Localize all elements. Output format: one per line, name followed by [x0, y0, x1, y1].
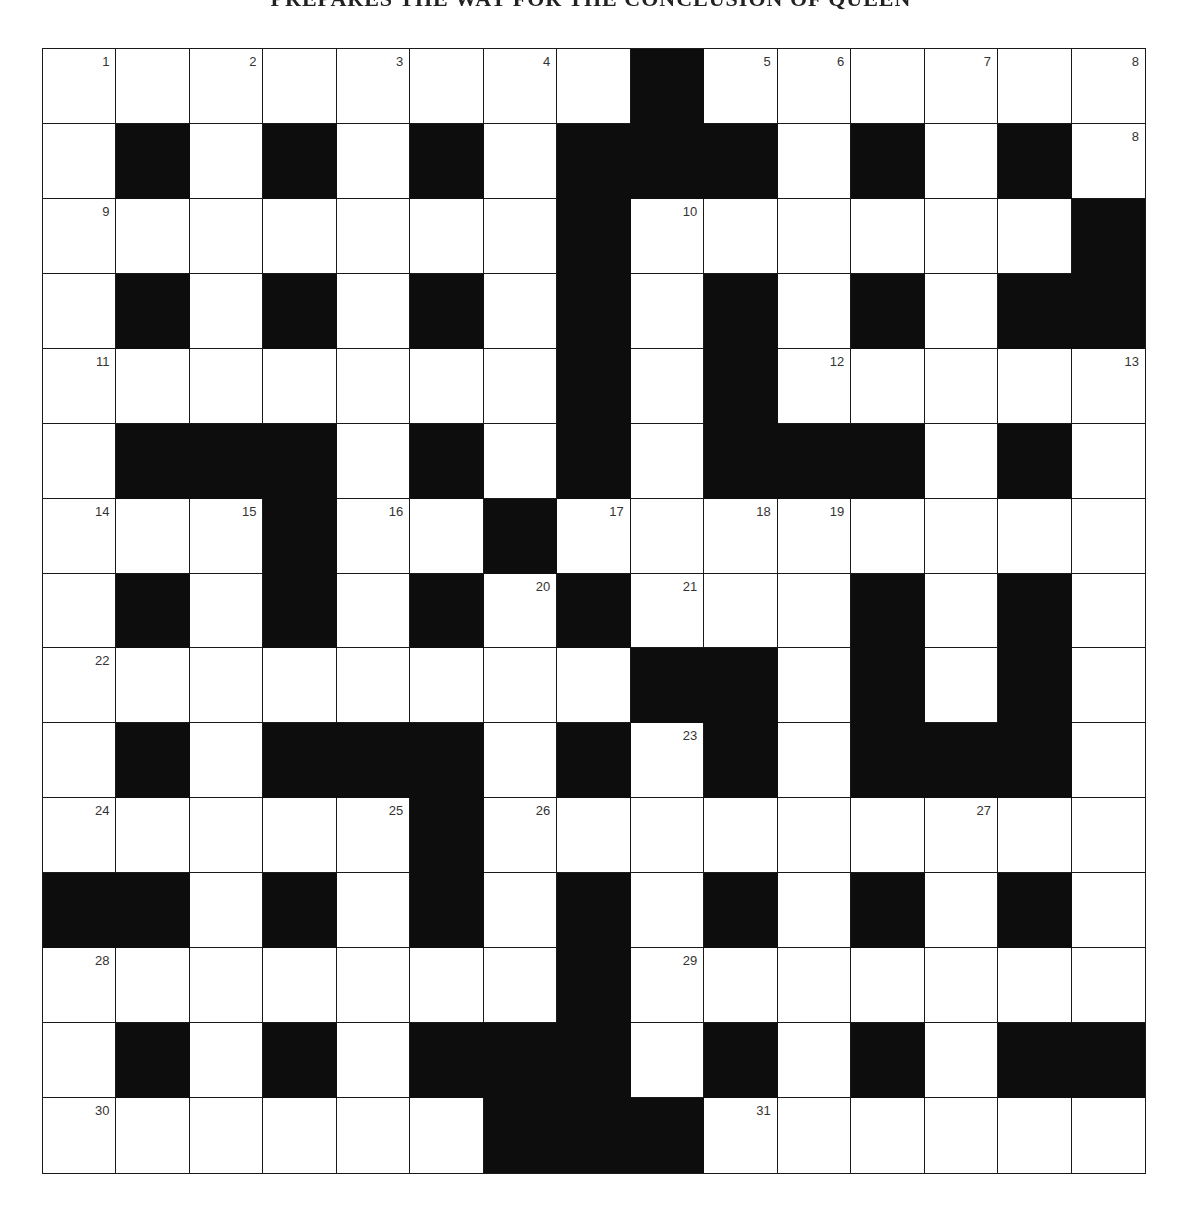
grid-cell[interactable] [116, 49, 189, 124]
grid-cell[interactable] [410, 1098, 483, 1173]
grid-cell[interactable] [998, 499, 1071, 574]
grid-cell[interactable] [1072, 424, 1145, 499]
grid-cell[interactable]: 14 [43, 499, 116, 574]
grid-cell[interactable] [631, 349, 704, 424]
grid-cell[interactable]: 7 [925, 49, 998, 124]
grid-cell[interactable] [998, 199, 1071, 274]
grid-cell[interactable] [631, 499, 704, 574]
grid-cell[interactable]: 4 [484, 49, 557, 124]
grid-cell[interactable]: 24 [43, 798, 116, 873]
grid-cell[interactable] [778, 1098, 851, 1173]
grid-cell[interactable] [337, 873, 410, 948]
grid-cell[interactable] [925, 274, 998, 349]
grid-cell[interactable] [631, 798, 704, 873]
grid-cell[interactable] [190, 124, 263, 199]
grid-cell[interactable] [337, 199, 410, 274]
grid-cell[interactable] [925, 124, 998, 199]
grid-cell[interactable] [43, 424, 116, 499]
grid-cell[interactable] [116, 1098, 189, 1173]
grid-cell[interactable] [116, 199, 189, 274]
grid-cell[interactable] [998, 349, 1071, 424]
grid-cell[interactable] [1072, 948, 1145, 1023]
grid-cell[interactable]: 18 [704, 499, 777, 574]
grid-cell[interactable] [778, 873, 851, 948]
grid-cell[interactable] [1072, 648, 1145, 723]
grid-cell[interactable] [43, 723, 116, 798]
grid-cell[interactable] [190, 1098, 263, 1173]
grid-cell[interactable]: 10 [631, 199, 704, 274]
grid-cell[interactable] [925, 424, 998, 499]
grid-cell[interactable] [704, 199, 777, 274]
grid-cell[interactable] [484, 349, 557, 424]
grid-cell[interactable] [631, 873, 704, 948]
grid-cell[interactable] [190, 723, 263, 798]
grid-cell[interactable] [337, 648, 410, 723]
grid-cell[interactable]: 20 [484, 574, 557, 649]
grid-cell[interactable] [484, 648, 557, 723]
grid-cell[interactable]: 8 [1072, 124, 1145, 199]
grid-cell[interactable] [484, 873, 557, 948]
grid-cell[interactable] [337, 424, 410, 499]
grid-cell[interactable] [851, 499, 924, 574]
grid-cell[interactable] [484, 124, 557, 199]
grid-cell[interactable] [851, 798, 924, 873]
grid-cell[interactable]: 23 [631, 723, 704, 798]
grid-cell[interactable]: 28 [43, 948, 116, 1023]
grid-cell[interactable] [925, 574, 998, 649]
grid-cell[interactable] [778, 274, 851, 349]
grid-cell[interactable] [778, 648, 851, 723]
grid-cell[interactable] [851, 199, 924, 274]
grid-cell[interactable] [190, 574, 263, 649]
grid-cell[interactable] [704, 948, 777, 1023]
grid-cell[interactable] [851, 349, 924, 424]
grid-cell[interactable] [925, 648, 998, 723]
grid-cell[interactable] [410, 49, 483, 124]
grid-cell[interactable] [484, 274, 557, 349]
grid-cell[interactable]: 9 [43, 199, 116, 274]
grid-cell[interactable]: 31 [704, 1098, 777, 1173]
grid-cell[interactable]: 25 [337, 798, 410, 873]
grid-cell[interactable]: 29 [631, 948, 704, 1023]
grid-cell[interactable]: 13 [1072, 349, 1145, 424]
grid-cell[interactable] [337, 1023, 410, 1098]
grid-cell[interactable] [1072, 873, 1145, 948]
grid-cell[interactable] [410, 199, 483, 274]
grid-cell[interactable] [116, 499, 189, 574]
grid-cell[interactable] [190, 274, 263, 349]
grid-cell[interactable] [43, 574, 116, 649]
grid-cell[interactable] [263, 648, 336, 723]
grid-cell[interactable] [1072, 798, 1145, 873]
grid-cell[interactable] [190, 648, 263, 723]
grid-cell[interactable] [925, 1098, 998, 1173]
grid-cell[interactable] [778, 574, 851, 649]
grid-cell[interactable] [263, 1098, 336, 1173]
grid-cell[interactable] [337, 948, 410, 1023]
grid-cell[interactable] [851, 948, 924, 1023]
grid-cell[interactable] [778, 798, 851, 873]
grid-cell[interactable] [778, 1023, 851, 1098]
grid-cell[interactable] [116, 648, 189, 723]
grid-cell[interactable] [410, 349, 483, 424]
grid-cell[interactable] [925, 349, 998, 424]
grid-cell[interactable]: 12 [778, 349, 851, 424]
grid-cell[interactable] [557, 648, 630, 723]
grid-cell[interactable] [1072, 499, 1145, 574]
grid-cell[interactable] [557, 798, 630, 873]
grid-cell[interactable] [43, 274, 116, 349]
grid-cell[interactable] [263, 49, 336, 124]
grid-cell[interactable]: 6 [778, 49, 851, 124]
grid-cell[interactable]: 26 [484, 798, 557, 873]
grid-cell[interactable] [704, 574, 777, 649]
grid-cell[interactable] [43, 1023, 116, 1098]
grid-cell[interactable]: 22 [43, 648, 116, 723]
grid-cell[interactable] [263, 349, 336, 424]
grid-cell[interactable] [851, 49, 924, 124]
grid-cell[interactable] [116, 948, 189, 1023]
grid-cell[interactable] [925, 199, 998, 274]
grid-cell[interactable]: 27 [925, 798, 998, 873]
grid-cell[interactable] [337, 1098, 410, 1173]
grid-cell[interactable]: 16 [337, 499, 410, 574]
grid-cell[interactable] [778, 124, 851, 199]
grid-cell[interactable] [410, 648, 483, 723]
grid-cell[interactable]: 1 [43, 49, 116, 124]
